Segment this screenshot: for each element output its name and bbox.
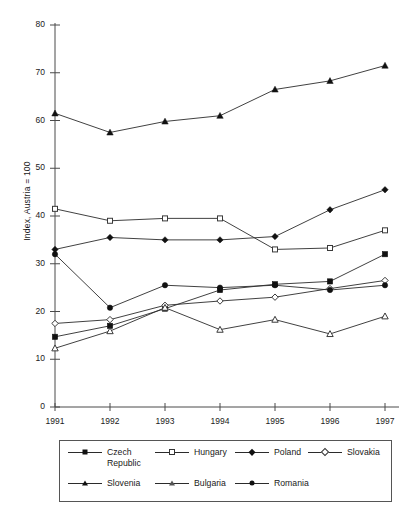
x-tick-label: 1997 [365,416,401,426]
data-point [383,228,388,233]
legend-label: Czech Republic [107,447,141,468]
open-triangle-icon [155,478,189,489]
filled-square-icon [68,447,102,458]
data-point [382,187,388,193]
data-point [327,279,332,284]
y-tick-label: 30 [23,258,45,268]
data-point [53,206,58,211]
data-point [272,294,278,300]
legend-marker [169,481,175,486]
legend-item-slovakia[interactable]: Slovakia [308,447,398,473]
x-tick-label: 1996 [310,416,350,426]
legend-marker [169,449,175,455]
legend-marker [321,448,329,456]
legend-label: Bulgaria [194,478,226,489]
legend-marker [83,450,88,455]
x-tick-label: 1993 [145,416,185,426]
series-line [55,66,385,133]
data-point [217,298,223,304]
y-tick-label: 70 [23,67,45,77]
legend-marker [249,449,255,455]
data-point [217,112,223,118]
data-point [382,62,388,68]
filled-triangle-icon [68,478,102,489]
data-point [327,207,333,213]
data-point [382,252,387,257]
y-tick-label: 60 [23,115,45,125]
line-chart: Index, Austria = 100 01020304050607080 1… [0,0,401,517]
y-tick-label: 10 [23,353,45,363]
data-point [382,313,388,319]
data-point [107,305,112,310]
data-point [272,316,278,322]
series-line [55,254,385,337]
data-point [162,283,167,288]
data-point [327,287,332,292]
legend-marker [250,481,255,486]
data-point [52,110,58,116]
data-point [217,237,223,243]
legend-marker [82,481,88,486]
y-tick-label: 50 [23,162,45,172]
data-point [328,245,333,250]
data-point [108,218,113,223]
data-point [272,233,278,239]
y-tick-label: 20 [23,306,45,316]
legend-label: Poland [274,447,301,458]
series-slovenia [52,62,388,135]
data-point [218,216,223,221]
open-square-icon [155,447,189,458]
x-tick-label: 1995 [255,416,295,426]
legend-label: Slovenia [107,478,140,489]
data-point [52,252,57,257]
data-point [52,320,58,326]
data-point [52,334,57,339]
data-point [107,316,113,322]
legend-row: SloveniaBulgariaRomania [60,478,391,504]
data-point [163,216,168,221]
legend-label: Slovakia [347,447,380,458]
filled-diamond-icon [235,447,269,458]
legend-item-slovenia[interactable]: Slovenia [68,478,164,504]
series-hungary [53,206,388,252]
y-tick-label: 0 [23,401,45,411]
data-point [217,285,222,290]
data-point [382,283,387,288]
x-tick-label: 1992 [90,416,130,426]
legend-label: Hungary [194,447,227,458]
y-tick-label: 40 [23,210,45,220]
legend-label: Romania [274,478,309,489]
series-slovakia [52,277,388,326]
x-tick-label: 1994 [200,416,240,426]
chart-legend: Czech RepublicHungaryPolandSlovakia Slov… [59,440,392,502]
data-point [273,247,278,252]
data-point [272,283,277,288]
filled-circle-icon [235,478,269,489]
data-point [107,234,113,240]
legend-item-romania[interactable]: Romania [235,478,331,504]
open-diamond-icon [308,447,342,458]
legend-row: Czech RepublicHungaryPolandSlovakia [60,447,391,473]
x-tick-label: 1991 [35,416,75,426]
y-tick-label: 80 [23,19,45,29]
data-point [162,237,168,243]
